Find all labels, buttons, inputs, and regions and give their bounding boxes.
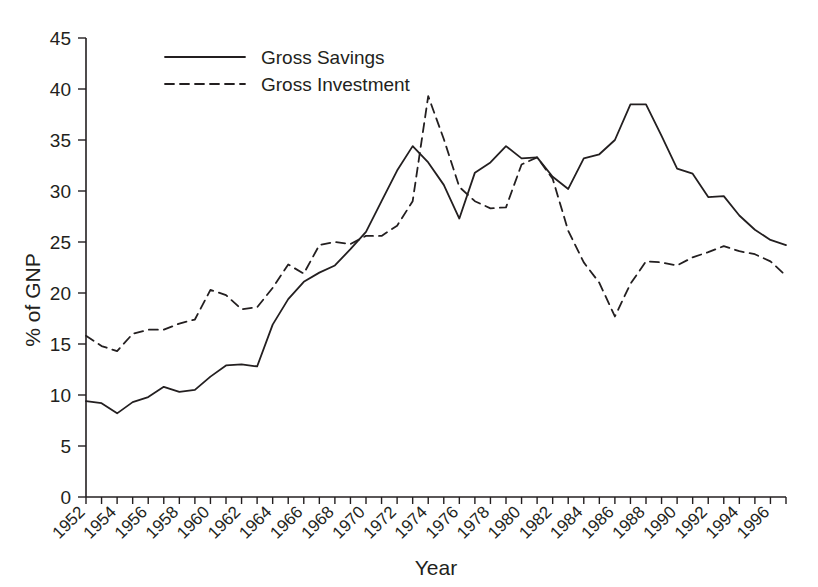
x-tick-label: 1980 <box>484 502 524 542</box>
legend-label-gross-investment: Gross Investment <box>261 74 411 95</box>
x-ticks: 1952195419561958196019621964196619681970… <box>49 497 786 543</box>
y-tick-label: 10 <box>50 385 71 406</box>
x-tick-label: 1964 <box>235 502 275 542</box>
x-tick-label: 1966 <box>266 502 306 542</box>
x-tick-label: 1956 <box>111 502 151 542</box>
x-tick-label: 1960 <box>173 502 213 542</box>
x-tick-label: 1978 <box>453 502 493 542</box>
y-tick-label: 45 <box>50 28 71 49</box>
x-tick-label: 1990 <box>640 502 680 542</box>
x-tick-label: 1994 <box>702 502 742 542</box>
legend-label-gross-savings: Gross Savings <box>261 47 385 68</box>
y-tick-label: 40 <box>50 79 71 100</box>
y-tick-label: 20 <box>50 283 71 304</box>
y-tick-label: 5 <box>60 436 71 457</box>
y-tick-label: 25 <box>50 232 71 253</box>
x-tick-label: 1988 <box>609 502 649 542</box>
series-path-gross-investment <box>86 96 786 351</box>
x-tick-label: 1974 <box>391 502 431 542</box>
x-tick-label: 1968 <box>298 502 338 542</box>
x-tick-label: 1992 <box>671 502 711 542</box>
x-tick-label: 1954 <box>80 502 120 542</box>
x-tick-label: 1984 <box>546 502 586 542</box>
y-tick-label: 30 <box>50 181 71 202</box>
data-series <box>86 96 786 413</box>
y-tick-label: 35 <box>50 130 71 151</box>
x-tick-label: 1982 <box>515 502 555 542</box>
series-path-gross-savings <box>86 104 786 413</box>
x-tick-label: 1972 <box>360 502 400 542</box>
y-tick-label: 0 <box>60 487 71 508</box>
axes <box>86 38 786 497</box>
x-tick-label: 1996 <box>733 502 773 542</box>
savings-investment-line-chart: 051015202530354045 195219541956195819601… <box>0 0 818 587</box>
y-axis-title: % of GNP <box>21 253 44 346</box>
x-axis-title: Year <box>415 556 457 579</box>
x-tick-label: 1976 <box>422 502 462 542</box>
x-tick-label: 1952 <box>49 502 89 542</box>
x-tick-label: 1962 <box>204 502 244 542</box>
chart-legend: Gross SavingsGross Investment <box>165 47 411 95</box>
chart-figure: 051015202530354045 195219541956195819601… <box>0 0 818 587</box>
x-tick-label: 1970 <box>329 502 369 542</box>
y-ticks: 051015202530354045 <box>50 28 86 508</box>
y-tick-label: 15 <box>50 334 71 355</box>
x-tick-label: 1986 <box>578 502 618 542</box>
x-tick-label: 1958 <box>142 502 182 542</box>
